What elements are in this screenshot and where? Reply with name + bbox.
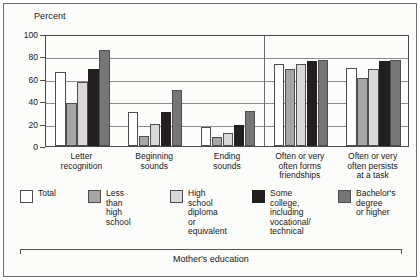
legend-swatch xyxy=(252,190,265,203)
y-axis-tick-label: 40 xyxy=(12,98,38,106)
bar[interactable] xyxy=(66,103,76,146)
y-axis-tick-label: 100 xyxy=(12,31,38,39)
chart-legend: TotalLess thanhigh schoolHigh schooldipl… xyxy=(20,190,402,246)
y-axis-tick-label: 20 xyxy=(12,121,38,129)
bar[interactable] xyxy=(307,61,317,146)
bar[interactable] xyxy=(379,61,389,146)
x-axis-group-title: Mother's education xyxy=(20,254,402,264)
bar-group xyxy=(264,36,337,146)
y-axis-tick-label: 60 xyxy=(12,76,38,84)
plot-area xyxy=(45,35,409,147)
bar[interactable] xyxy=(357,78,367,146)
legend-swatch xyxy=(88,190,101,203)
x-axis-brace-line xyxy=(20,249,402,250)
bar[interactable] xyxy=(77,82,87,146)
bar[interactable] xyxy=(161,112,171,146)
bar[interactable] xyxy=(285,69,295,146)
bar[interactable] xyxy=(368,69,378,146)
bar[interactable] xyxy=(88,69,98,146)
legend-label: Less thanhigh school xyxy=(106,189,131,227)
y-axis-tick-label: 80 xyxy=(12,53,38,61)
bar[interactable] xyxy=(139,136,149,146)
legend-label: Total xyxy=(38,189,56,199)
bar[interactable] xyxy=(245,111,255,146)
bar[interactable] xyxy=(201,127,211,146)
bar-group xyxy=(46,36,119,146)
bar[interactable] xyxy=(223,133,233,146)
bar[interactable] xyxy=(150,124,160,146)
bar[interactable] xyxy=(296,64,306,146)
bar[interactable] xyxy=(55,72,65,146)
bar[interactable] xyxy=(212,137,222,146)
legend-label: Bachelor'sdegreeor higher xyxy=(356,189,395,218)
bar[interactable] xyxy=(172,90,182,146)
bar[interactable] xyxy=(318,60,328,146)
y-axis-title: Percent xyxy=(34,11,66,21)
legend-swatch xyxy=(338,190,351,203)
legend-label: Some college,includingvocational/technic… xyxy=(270,189,311,237)
bar[interactable] xyxy=(390,60,400,146)
y-axis-tick-mark xyxy=(40,147,45,148)
panel-separator xyxy=(264,36,265,146)
bar-group xyxy=(337,36,410,146)
bar-group xyxy=(192,36,265,146)
bar[interactable] xyxy=(99,50,109,146)
legend-swatch xyxy=(170,190,183,203)
bar[interactable] xyxy=(346,68,356,146)
legend-label: High schooldiplomaor equivalent xyxy=(188,189,227,237)
x-axis-tick-label: Often or veryoften persistsat a task xyxy=(330,152,415,181)
bar[interactable] xyxy=(234,125,244,146)
bar[interactable] xyxy=(274,64,284,146)
y-axis-tick-label: 0 xyxy=(12,143,38,151)
bar-group xyxy=(119,36,192,146)
chart-figure: Percent 020406080100 LetterrecognitionBe… xyxy=(3,3,417,277)
legend-swatch xyxy=(20,190,33,203)
bar[interactable] xyxy=(128,112,138,146)
